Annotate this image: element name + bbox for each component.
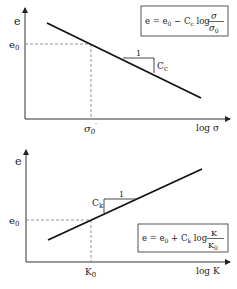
bottom-e0-label: e0 (9, 215, 19, 228)
bottom-formula: e = e0 + Ck log (142, 233, 208, 244)
bottom-formula-numerator: K (211, 229, 218, 238)
top-formula-numerator: σ (211, 11, 217, 21)
bottom-chart: e e0 1 Ck K0 log K e = e0 + Ck log K K0 (9, 150, 230, 279)
diagram-canvas: e e0 1 Cc σ0′ log σ e = e0 − Cc log σ σ0… (0, 0, 237, 289)
top-slope-triangle (123, 58, 154, 73)
top-x-axis-label: log σ (196, 123, 219, 133)
top-slope-run-label: 1 (136, 49, 141, 58)
bottom-y-axis-label: e (15, 155, 22, 168)
bottom-k0-label: K0 (85, 267, 96, 279)
top-e0-label: e0 (9, 39, 19, 52)
top-formula: e = e0 − Cc log (145, 16, 210, 27)
bottom-slope-run-label: 1 (119, 190, 124, 199)
top-slope-rise-label: Cc (157, 61, 168, 73)
top-sigma0-label: σ0′ (84, 122, 97, 136)
bottom-slope-rise-label: Ck (92, 198, 104, 210)
top-y-axis-label: e (14, 15, 21, 28)
bottom-x-axis-label: log K (196, 266, 220, 276)
top-chart: e e0 1 Cc σ0′ log σ e = e0 − Cc log σ σ0 (9, 6, 230, 136)
